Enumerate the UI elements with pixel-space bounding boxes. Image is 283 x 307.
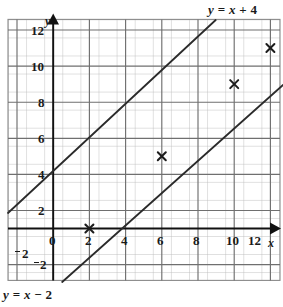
equation-upper-variable: x: [229, 2, 236, 17]
equation-label-upper: y = x + 4: [208, 3, 257, 16]
y-tick-8: 8: [38, 96, 45, 109]
y-tick-10: 10: [31, 60, 44, 73]
y-axis-label: y: [45, 15, 50, 27]
equation-upper-constant: 4: [251, 2, 258, 17]
x-tick-10: 10: [226, 234, 239, 247]
minus-sign-icon: [15, 251, 20, 252]
x-tick-2: 2: [85, 234, 92, 247]
equation-lower-constant: 2: [46, 287, 53, 302]
x-tick-0: 0: [49, 234, 56, 247]
y-tick-4: 4: [38, 168, 45, 181]
x-tick-negative-2-value: 2: [22, 246, 29, 261]
equation-lower-equals: =: [13, 287, 21, 302]
equation-upper-operator: +: [239, 2, 247, 17]
minus-sign-icon: [34, 262, 39, 263]
x-tick-6: 6: [157, 234, 164, 247]
equation-lower-operator: −: [34, 287, 42, 302]
equation-upper-lhs: y: [208, 2, 214, 17]
x-tick-8: 8: [193, 234, 200, 247]
x-tick-4: 4: [121, 234, 128, 247]
equation-lower-lhs: y: [3, 287, 9, 302]
equation-label-lower: y = x − 2: [3, 288, 52, 301]
x-tick-negative-2: 2: [22, 247, 283, 260]
graph-figure: y x 12 10 8 6 4 2 2 2 0 2 4 6 8 10 12 y …: [0, 0, 283, 307]
y-tick-12: 12: [31, 24, 44, 37]
equation-upper-equals: =: [218, 2, 226, 17]
x-tick-12: 12: [248, 234, 261, 247]
y-tick-2: 2: [38, 204, 45, 217]
equation-lower-variable: x: [24, 287, 31, 302]
y-tick-6: 6: [38, 132, 45, 145]
